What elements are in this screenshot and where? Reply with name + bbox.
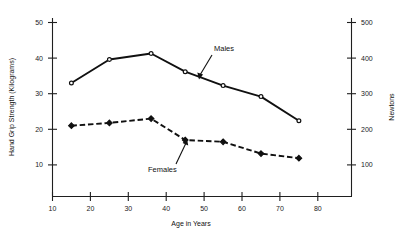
y2-tick-label-300: 300 xyxy=(361,90,373,97)
x-tick-label-50: 50 xyxy=(200,205,208,212)
y-tick-label-10: 10 xyxy=(35,161,43,168)
males-point xyxy=(108,58,112,62)
x-tick-label-80: 80 xyxy=(314,205,322,212)
y-axis-title: Hand Grip Strength (Kilograms) xyxy=(8,58,16,156)
males-point xyxy=(149,52,153,56)
y-axis-right-ticks: 500 400 300 200 100 xyxy=(347,19,373,168)
axes-group xyxy=(53,18,353,197)
grip-strength-chart: 50 40 30 20 10 500 400 300 200 100 xyxy=(0,0,409,236)
y2-tick-label-400: 400 xyxy=(361,55,373,62)
y-tick-label-50: 50 xyxy=(35,19,43,26)
x-tick-label-60: 60 xyxy=(238,205,246,212)
females-point xyxy=(69,123,75,129)
x-tick-label-70: 70 xyxy=(276,205,284,212)
males-annotation-label: Males xyxy=(214,44,234,53)
females-point xyxy=(107,120,113,126)
females-point xyxy=(220,139,226,145)
series-females xyxy=(69,116,302,161)
x-tick-label-10: 10 xyxy=(49,205,57,212)
males-annotation: Males xyxy=(197,44,234,80)
y2-tick-label-100: 100 xyxy=(361,161,373,168)
females-annotation-label: Females xyxy=(148,165,177,174)
males-point xyxy=(70,81,74,85)
females-point xyxy=(296,155,302,161)
females-point xyxy=(258,151,264,157)
x-tick-label-40: 40 xyxy=(162,205,170,212)
x-tick-label-20: 20 xyxy=(87,205,95,212)
males-point xyxy=(259,95,263,99)
x-axis-ticks: 10 20 30 40 50 60 70 80 xyxy=(49,192,322,212)
y-axis-left-ticks: 50 40 30 20 10 xyxy=(35,19,57,168)
y-tick-label-30: 30 xyxy=(35,90,43,97)
males-point xyxy=(221,84,225,88)
x-axis-title: Age in Years xyxy=(171,220,211,228)
y2-tick-label-500: 500 xyxy=(361,19,373,26)
chart-svg: 50 40 30 20 10 500 400 300 200 100 xyxy=(0,0,409,236)
x-tick-label-30: 30 xyxy=(124,205,132,212)
y-tick-label-40: 40 xyxy=(35,55,43,62)
males-point xyxy=(183,70,187,74)
y2-tick-label-200: 200 xyxy=(361,126,373,133)
males-point xyxy=(297,119,301,123)
y-tick-label-20: 20 xyxy=(35,126,43,133)
males-line xyxy=(71,54,299,121)
females-annotation-leader xyxy=(176,143,186,164)
males-annotation-leader xyxy=(200,55,212,75)
y2-axis-title: Newtons xyxy=(388,93,395,121)
females-annotation: Females xyxy=(148,139,188,175)
series-males xyxy=(70,52,301,123)
females-point xyxy=(148,116,154,122)
